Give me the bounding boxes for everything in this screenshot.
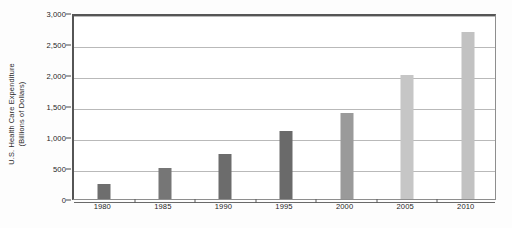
x-axis-tick-label: 1990 bbox=[215, 202, 232, 211]
bar-series bbox=[74, 16, 495, 199]
x-axis-tick-labels: 1980198519901995200020052010 bbox=[72, 202, 496, 222]
y-axis-tick-label: 2,500 bbox=[46, 41, 66, 50]
bar bbox=[401, 75, 414, 199]
x-axis-tick-label: 1980 bbox=[94, 202, 111, 211]
bar bbox=[461, 32, 474, 199]
y-axis-tick-label: 1,500 bbox=[46, 103, 66, 112]
y-axis-title: U.S. Health Care Expenditure (Billions o… bbox=[0, 0, 34, 228]
bar bbox=[340, 113, 353, 199]
y-axis-tick-mark bbox=[66, 107, 71, 108]
x-axis-tick-label: 1995 bbox=[275, 202, 292, 211]
y-axis-tick-mark bbox=[66, 200, 71, 201]
y-axis-tick-mark bbox=[66, 45, 71, 46]
y-axis-title-line-1: U.S. Health Care Expenditure bbox=[7, 63, 16, 165]
y-axis-title-line-2: (Billions of Dollars) bbox=[17, 63, 27, 165]
bar bbox=[280, 131, 293, 199]
y-axis-tick-label: 2,000 bbox=[46, 72, 66, 81]
y-axis-title-text: U.S. Health Care Expenditure (Billions o… bbox=[7, 63, 26, 165]
y-axis-tick-mark bbox=[66, 14, 71, 15]
y-axis-tick-mark bbox=[66, 76, 71, 77]
y-axis-tick-labels: 05001,0001,5002,0002,5003,000 bbox=[30, 14, 70, 200]
y-axis-tick-mark bbox=[66, 138, 71, 139]
x-axis-tick-label: 2000 bbox=[336, 202, 353, 211]
x-axis-tick-label: 2005 bbox=[396, 202, 413, 211]
y-axis-tick-mark bbox=[66, 169, 71, 170]
x-axis-tick-label: 1985 bbox=[154, 202, 171, 211]
bar bbox=[219, 154, 232, 199]
bar bbox=[98, 184, 111, 200]
y-axis-tick-label: 1,000 bbox=[46, 134, 66, 143]
x-axis-tick-label: 2010 bbox=[457, 202, 474, 211]
y-axis-tick-label: 500 bbox=[53, 165, 66, 174]
bar bbox=[158, 168, 171, 199]
y-axis-tick-label: 3,000 bbox=[46, 10, 66, 19]
bar-chart-figure: U.S. Health Care Expenditure (Billions o… bbox=[0, 0, 512, 228]
plot-area bbox=[72, 14, 496, 200]
